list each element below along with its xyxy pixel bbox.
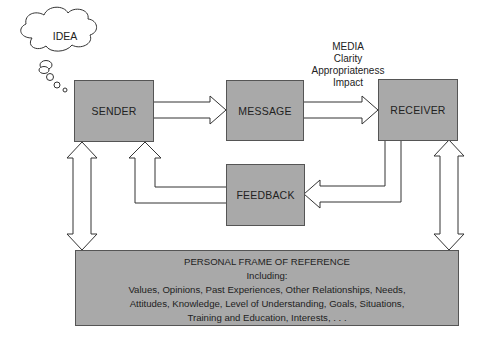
thought-bubbles-icon: [39, 61, 67, 93]
sender-node: SENDER: [74, 80, 154, 142]
frame-line: Values, Opinions, Past Experiences, Othe…: [76, 283, 458, 297]
arrow-sender-to-message: [153, 96, 226, 124]
message-label: MESSAGE: [238, 105, 291, 117]
idea-label: IDEA: [40, 30, 90, 42]
media-title: MEDIA: [298, 41, 398, 53]
frame-subtitle: Including:: [76, 269, 458, 283]
double-arrow-sender-frame: [67, 142, 97, 250]
message-node: MESSAGE: [226, 80, 304, 141]
media-annotation: MEDIA Clarity Appropriateness Impact: [298, 41, 398, 89]
sender-label: SENDER: [92, 105, 137, 117]
frame-title: PERSONAL FRAME OF REFERENCE: [76, 255, 458, 269]
media-line: Appropriateness: [298, 65, 398, 77]
frame-line: Training and Education, Interests, . . .: [76, 311, 458, 325]
frame-line: Attitudes, Knowledge, Level of Understan…: [76, 297, 458, 311]
double-arrow-receiver-frame: [434, 140, 464, 250]
personal-frame-of-reference: PERSONAL FRAME OF REFERENCE Including: V…: [75, 250, 459, 326]
arrow-feedback-to-sender: [129, 142, 226, 203]
arrow-message-to-receiver: [304, 96, 378, 124]
media-line: Impact: [298, 77, 398, 89]
feedback-label: FEEDBACK: [236, 189, 294, 201]
feedback-node: FEEDBACK: [226, 164, 305, 226]
arrow-receiver-to-feedback: [304, 140, 401, 208]
media-line: Clarity: [298, 53, 398, 65]
receiver-label: RECEIVER: [390, 104, 445, 116]
